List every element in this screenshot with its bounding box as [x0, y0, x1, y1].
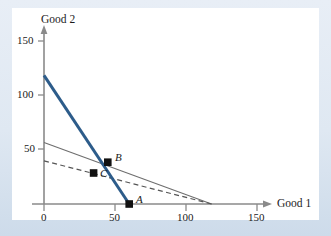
pivoted-budget-line [44, 143, 212, 204]
x-tick-label-150: 150 [248, 212, 265, 223]
x-tick-label-0: 0 [41, 212, 47, 223]
y-tick-label-50: 50 [24, 143, 35, 154]
x-axis [32, 201, 272, 208]
data-point-a [125, 200, 133, 208]
x-tick-label-50: 50 [109, 212, 120, 223]
chart-panel: Good 2 Good 1 150 100 50 0 50 100 150 A … [12, 8, 319, 220]
original-budget-line [44, 75, 129, 204]
data-point-c [90, 169, 98, 177]
y-axis-ticks [38, 41, 44, 149]
figure-background: Good 2 Good 1 150 100 50 0 50 100 150 A … [0, 0, 331, 236]
point-label-a: A [136, 194, 143, 205]
y-axis-title: Good 2 [41, 14, 75, 26]
point-label-c: C [100, 168, 107, 179]
point-label-b: B [115, 152, 122, 163]
data-point-b [104, 158, 112, 166]
compensated-budget-line [44, 161, 212, 204]
y-tick-label-150: 150 [17, 35, 34, 46]
x-axis-title: Good 1 [277, 198, 311, 210]
y-tick-label-100: 100 [17, 89, 34, 100]
x-axis-ticks [44, 204, 257, 211]
chart-svg [12, 8, 319, 220]
y-axis [41, 25, 48, 204]
x-tick-label-100: 100 [177, 212, 194, 223]
